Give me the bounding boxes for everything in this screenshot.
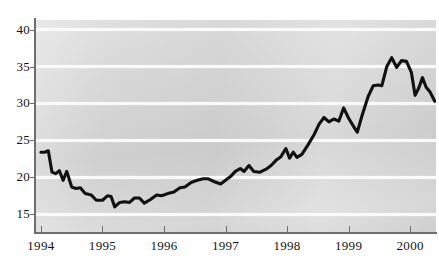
x-tick-1996 <box>164 226 165 233</box>
x-tick-1995 <box>102 226 103 233</box>
y-tick-label-30: 30 <box>4 96 30 109</box>
x-tick-2000 <box>410 226 411 233</box>
y-tick-label-15: 15 <box>4 207 30 220</box>
y-tick-label-25: 25 <box>4 133 30 146</box>
x-tick-label-1996: 1996 <box>136 239 192 253</box>
y-tick-25 <box>30 140 35 141</box>
x-tick-label-1997: 1997 <box>198 239 254 253</box>
x-axis-line <box>34 232 437 234</box>
series-line-chart <box>36 20 436 232</box>
y-tick-label-35: 35 <box>4 60 30 73</box>
y-tick-35 <box>30 67 35 68</box>
x-tick-label-1994: 1994 <box>13 239 69 253</box>
x-tick-1994 <box>41 226 42 233</box>
x-tick-label-1999: 1999 <box>321 239 377 253</box>
y-axis-line <box>34 18 36 234</box>
x-tick-1998 <box>287 226 288 233</box>
y-tick-30 <box>30 103 35 104</box>
x-tick-1997 <box>226 226 227 233</box>
y-tick-40 <box>30 30 35 31</box>
x-tick-label-2000: 2000 <box>382 239 438 253</box>
y-tick-label-40: 40 <box>4 23 30 36</box>
data-series-line <box>41 58 435 207</box>
x-tick-label-1998: 1998 <box>259 239 315 253</box>
y-tick-20 <box>30 177 35 178</box>
x-tick-label-1995: 1995 <box>74 239 130 253</box>
plot-area <box>36 20 436 232</box>
y-tick-label-20: 20 <box>4 170 30 183</box>
chart-figure: 152025303540 199419951996199719981999200… <box>0 0 439 270</box>
y-tick-15 <box>30 214 35 215</box>
x-tick-1999 <box>349 226 350 233</box>
